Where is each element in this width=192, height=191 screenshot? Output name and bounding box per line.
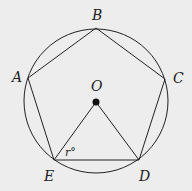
label-o: O — [91, 78, 103, 94]
label-e: E — [43, 168, 54, 184]
label-b: B — [91, 7, 102, 23]
label-d: D — [138, 168, 150, 184]
label-a: A — [10, 69, 22, 85]
pentagon-diagram: B A C O E D r° — [0, 0, 192, 191]
center-point-o — [93, 99, 100, 106]
label-c: C — [173, 70, 184, 86]
diagram-canvas: B A C O E D r° — [0, 0, 192, 191]
segment-od — [96, 102, 139, 160]
angle-label-r: r° — [65, 146, 76, 159]
